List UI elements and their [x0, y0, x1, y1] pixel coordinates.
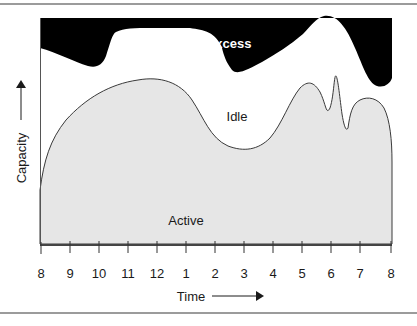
tick-label: 7 — [356, 266, 363, 281]
excess-label: Excess — [207, 36, 252, 51]
tick-label: 5 — [298, 266, 305, 281]
tick-label: 9 — [66, 266, 73, 281]
tick-label: 11 — [121, 266, 135, 281]
tick-label: 12 — [150, 266, 164, 281]
tick-label: 8 — [37, 266, 44, 281]
idle-label: Idle — [227, 109, 248, 124]
tick-label: 8 — [387, 266, 394, 281]
tick-label: 6 — [327, 266, 334, 281]
x-axis-tick-labels: 8 9 10 11 12 1 2 3 4 5 6 7 8 — [37, 266, 394, 281]
x-axis-arrow-icon — [212, 291, 264, 301]
active-label: Active — [168, 213, 203, 228]
capacity-chart: 8 9 10 11 12 1 2 3 4 5 6 7 8 Excess Idle… — [0, 0, 417, 326]
tick-label: 4 — [269, 266, 276, 281]
tick-label: 2 — [211, 266, 218, 281]
x-axis-title: Time — [177, 289, 205, 304]
tick-label: 10 — [92, 266, 106, 281]
y-axis-title: Capacity — [14, 132, 29, 183]
tick-label: 3 — [240, 266, 247, 281]
y-axis-arrow-icon — [16, 80, 26, 120]
tick-label: 1 — [182, 266, 189, 281]
